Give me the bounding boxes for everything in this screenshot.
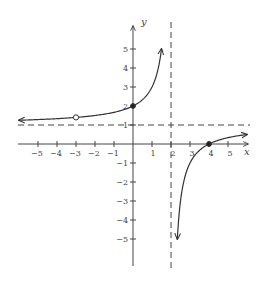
- y-tick-label: 5: [123, 45, 128, 54]
- y-tick-label: −4: [116, 216, 128, 225]
- y-tick-label: −1: [116, 159, 128, 168]
- function-graph: −5 −4 −3 −2 −1 1 2 3 4 5 5 4 3 2 1 −1 −2…: [0, 0, 266, 285]
- y-tick-label: −3: [116, 197, 128, 206]
- x-tick-label: 4: [208, 149, 213, 158]
- x-tick-label: −2: [88, 149, 100, 158]
- y-tick-label: 1: [123, 121, 128, 130]
- y-tick-label: 3: [123, 83, 128, 92]
- y-tick-label: −5: [116, 235, 128, 244]
- x-axis-label: x: [244, 146, 250, 157]
- x-tick-label: −3: [69, 149, 81, 158]
- x-tick-label: 2: [170, 149, 175, 158]
- x-tick-label: 1: [150, 149, 155, 158]
- x-tick-label: −4: [50, 149, 62, 158]
- y-tick-label: −2: [116, 178, 128, 187]
- closed-point: [207, 142, 212, 147]
- x-tick-label: 5: [227, 149, 232, 158]
- open-point-hole: [73, 115, 78, 120]
- x-tick-label: −5: [31, 149, 43, 158]
- y-axis-label: y: [140, 16, 147, 27]
- x-tick-labels: −5 −4 −3 −2 −1 1 2 3 4 5: [31, 149, 232, 158]
- left-branch-curve: [19, 49, 162, 120]
- y-tick-label: 4: [123, 64, 128, 73]
- x-tick-label: −1: [107, 149, 119, 158]
- closed-point: [131, 104, 136, 109]
